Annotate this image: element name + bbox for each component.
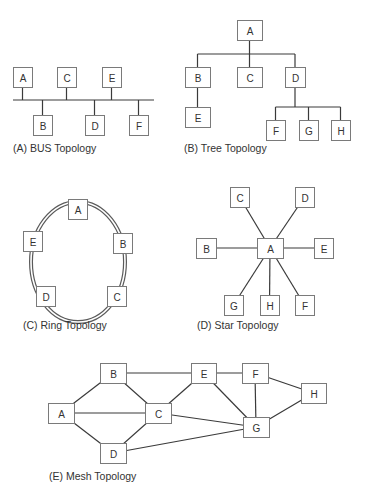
- tree-node-b: B: [186, 68, 211, 88]
- node-label: A: [267, 244, 274, 255]
- ring-topology-caption: (C) Ring Topology: [23, 319, 108, 331]
- node-label: D: [292, 73, 299, 84]
- mesh-node-f: F: [243, 364, 269, 384]
- node-label: C: [113, 292, 120, 303]
- node-label: H: [266, 301, 273, 312]
- node-label: A: [75, 205, 82, 216]
- node-label: D: [91, 121, 98, 132]
- network-topologies-figure: ACEBDF (A) BUS Topology ABCDEFGH (B) Tre…: [0, 0, 367, 494]
- tree-node-e: E: [186, 108, 211, 128]
- node-label: B: [203, 244, 210, 255]
- node-label: C: [63, 73, 70, 84]
- mesh-node-a: A: [49, 404, 75, 424]
- node-label: F: [136, 121, 142, 132]
- tree-topology-diagram: ABCDEFGH: [186, 21, 351, 141]
- bus-node-c: C: [58, 68, 77, 88]
- node-label: H: [337, 126, 344, 137]
- mesh-node-g: G: [244, 418, 270, 438]
- bus-node-d: D: [86, 116, 105, 136]
- node-label: B: [120, 239, 127, 250]
- bus-node-a: A: [14, 68, 33, 88]
- tree-node-h: H: [332, 121, 351, 141]
- mesh-node-e: E: [192, 364, 217, 384]
- bus-node-e: E: [103, 68, 122, 88]
- mesh-topology-diagram: ABCDEFGH: [49, 364, 327, 464]
- mesh-link-c-g: [158, 413, 256, 427]
- tree-node-f: F: [267, 121, 286, 141]
- tree-topology-caption: (B) Tree Topology: [184, 142, 267, 154]
- bus-topology-diagram: ACEBDF: [13, 68, 154, 136]
- node-label: G: [253, 423, 261, 434]
- star-node-e: E: [315, 239, 334, 259]
- ring-node-a: A: [69, 200, 88, 220]
- star-node-f: F: [296, 296, 315, 316]
- star-node-g: G: [225, 296, 244, 316]
- mesh-node-h: H: [302, 384, 327, 404]
- bus-topology-caption: (A) BUS Topology: [13, 142, 97, 154]
- node-label: D: [110, 449, 117, 460]
- star-topology-caption: (D) Star Topology: [197, 319, 279, 331]
- node-label: E: [321, 244, 328, 255]
- bus-node-f: F: [130, 116, 149, 136]
- mesh-node-d: D: [101, 444, 127, 464]
- node-label: E: [109, 73, 116, 84]
- ring-topology-diagram: ABCDE: [24, 200, 133, 323]
- ring-node-d: D: [37, 287, 56, 307]
- ring-node-b: B: [114, 234, 133, 254]
- node-label: E: [201, 369, 208, 380]
- mesh-link-d-g: [113, 427, 256, 453]
- node-label: F: [302, 301, 308, 312]
- mesh-topology-caption: (E) Mesh Topology: [49, 470, 137, 482]
- node-label: G: [305, 126, 313, 137]
- node-label: F: [252, 369, 258, 380]
- star-node-d: D: [296, 188, 315, 208]
- node-label: D: [42, 292, 49, 303]
- node-label: A: [247, 26, 254, 37]
- mesh-node-c: C: [146, 404, 172, 424]
- star-node-c: C: [231, 188, 250, 208]
- node-label: E: [195, 113, 202, 124]
- star-node-h: H: [261, 296, 280, 316]
- node-label: B: [40, 121, 47, 132]
- tree-node-a: A: [238, 21, 263, 41]
- node-label: D: [301, 193, 308, 204]
- star-node-b: B: [197, 239, 217, 259]
- node-label: E: [30, 237, 37, 248]
- ring-node-c: C: [108, 287, 127, 307]
- node-label: B: [110, 369, 117, 380]
- node-label: A: [20, 73, 27, 84]
- node-label: A: [58, 409, 65, 420]
- node-label: F: [273, 126, 279, 137]
- node-label: C: [246, 73, 253, 84]
- star-topology-diagram: ABCDEFGH: [197, 188, 334, 316]
- node-label: G: [230, 301, 238, 312]
- tree-node-g: G: [300, 121, 319, 141]
- node-label: B: [195, 73, 202, 84]
- cut-off-text-line: ​: [0, 488, 367, 494]
- node-label: H: [310, 389, 317, 400]
- tree-node-c: C: [238, 68, 263, 88]
- tree-node-d: D: [286, 68, 306, 88]
- ring-node-e: E: [24, 232, 43, 252]
- node-label: C: [155, 409, 162, 420]
- node-label: C: [236, 193, 243, 204]
- bus-node-b: B: [34, 116, 53, 136]
- mesh-node-b: B: [101, 364, 127, 384]
- star-node-a: A: [258, 239, 284, 259]
